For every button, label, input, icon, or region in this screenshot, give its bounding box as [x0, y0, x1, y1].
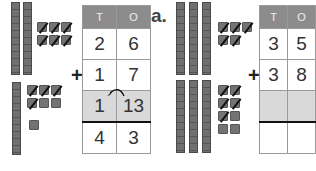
ones-cube-crossed: [27, 85, 37, 95]
ones-cube: [29, 120, 39, 130]
ones-cube: [230, 111, 240, 121]
regroup-arrow-icon: [104, 84, 128, 100]
tens-rod: [189, 80, 198, 153]
ones-cube-crossed: [230, 85, 240, 95]
header-tens: T: [83, 6, 117, 29]
cell: 2: [83, 29, 117, 60]
ones-cube-crossed: [37, 35, 47, 45]
answer-cell-regroup[interactable]: [288, 91, 316, 123]
ones-cube-crossed: [39, 85, 49, 95]
ones-cube-crossed: [51, 85, 61, 95]
tens-rod: [23, 2, 32, 75]
ones-cube-crossed: [37, 22, 47, 32]
problem-a-place-value-table: T O 3 5 3 8: [259, 5, 316, 154]
ones-cube: [218, 124, 228, 134]
answer-cell[interactable]: [260, 122, 288, 154]
ones-cube-crossed: [218, 98, 228, 108]
header-ones: O: [288, 6, 316, 29]
cell: 3: [260, 60, 288, 91]
cell: 4: [83, 122, 117, 154]
cell: 6: [117, 29, 151, 60]
ones-cube-crossed: [61, 35, 71, 45]
ones-cube-crossed: [230, 35, 240, 45]
ones-cube-crossed: [230, 98, 240, 108]
ones-cube-crossed: [27, 98, 37, 108]
tens-rod: [202, 2, 211, 75]
ones-cube: [39, 98, 49, 108]
cell: 3: [117, 122, 151, 154]
cell: 5: [288, 29, 316, 60]
answer-cell[interactable]: [288, 122, 316, 154]
ones-cube-crossed: [218, 85, 228, 95]
ones-cube-crossed: [61, 22, 71, 32]
tens-rod: [176, 80, 185, 153]
problem-label: a.: [151, 5, 167, 27]
example-place-value-table: T O 2 6 1 7 1 13 4 3: [82, 5, 151, 154]
tens-rod: [12, 82, 21, 155]
cell: 8: [288, 60, 316, 91]
plus-sign: +: [71, 64, 83, 87]
tens-rod: [202, 80, 211, 153]
ones-cube: [51, 98, 61, 108]
ones-cube-crossed: [218, 35, 228, 45]
ones-cube: [230, 124, 240, 134]
ones-cube-crossed: [218, 111, 228, 121]
ones-cube-crossed: [49, 35, 59, 45]
header-tens: T: [260, 6, 288, 29]
ones-cube-crossed: [49, 22, 59, 32]
ones-cube-crossed: [218, 22, 228, 32]
cell: 3: [260, 29, 288, 60]
tens-rod: [176, 2, 185, 75]
answer-cell-regroup[interactable]: [260, 91, 288, 123]
ones-cube-crossed: [242, 22, 252, 32]
ones-cube-crossed: [230, 22, 240, 32]
header-ones: O: [117, 6, 151, 29]
tens-rod: [11, 2, 20, 75]
plus-sign: +: [248, 64, 260, 87]
tens-rod: [189, 2, 198, 75]
